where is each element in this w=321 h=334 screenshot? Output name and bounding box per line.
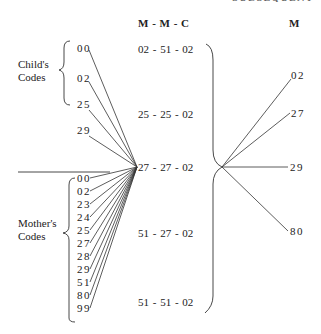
mother-code: 23 — [77, 199, 91, 210]
child-code: 29 — [77, 125, 91, 136]
mother-code: 27 — [77, 238, 91, 249]
right-code: 29 — [290, 162, 304, 173]
triple-code: 25 - 25 - 02 — [138, 109, 193, 120]
triple-column-header: M - M - C — [138, 18, 190, 29]
triples-bracket — [205, 44, 222, 313]
mother-code: 99 — [77, 303, 91, 314]
mother-codes-label: Mother's Codes — [18, 217, 57, 243]
mother-code: 80 — [77, 290, 91, 301]
triple-code-hub: 27 - 27 - 02 — [138, 162, 193, 173]
mother-code: 25 — [77, 225, 91, 236]
mother-code: 29 — [77, 264, 91, 275]
child-code: 02 — [77, 73, 91, 84]
mother-code: 02 — [77, 186, 91, 197]
right-code: 27 — [291, 108, 305, 119]
mother-code: 28 — [77, 251, 91, 262]
right-column-header: M — [289, 18, 300, 29]
child-code: 25 — [77, 99, 91, 110]
right-code: 02 — [291, 70, 305, 81]
mother-code: 00 — [77, 173, 91, 184]
triple-code: 02 - 51 - 02 — [138, 44, 193, 55]
child-codes-brace — [59, 41, 70, 105]
triple-code: 51 - 51 - 02 — [138, 297, 193, 308]
code-mapping-diagram: SUBSEQUENT MMM M - M - C M Child's Codes… — [0, 0, 321, 334]
mother-codes-brace — [63, 178, 75, 322]
child-codes-label: Child's Codes — [18, 58, 49, 84]
child-code: 00 — [77, 43, 91, 54]
cropped-heading: SUBSEQUENT MMM — [232, 0, 321, 2]
right-code: 80 — [290, 226, 304, 237]
mother-code: 51 — [77, 277, 91, 288]
triple-code: 51 - 27 - 02 — [138, 228, 193, 239]
mother-code: 24 — [77, 212, 91, 223]
